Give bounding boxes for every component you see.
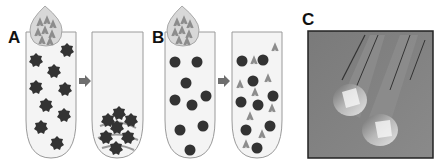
panel-b-droplet [167,6,199,46]
panel-b-tube-after [232,32,282,158]
panel-a-tube-after [92,32,143,158]
figure-canvas [0,0,443,168]
panel-a-droplet [30,6,62,46]
panel-c-photo [308,31,433,158]
panel-a-tube-before [26,6,76,158]
arrow-b-icon [218,75,230,87]
panel-b-tube-before [165,6,215,158]
arrow-a-icon [79,75,91,87]
